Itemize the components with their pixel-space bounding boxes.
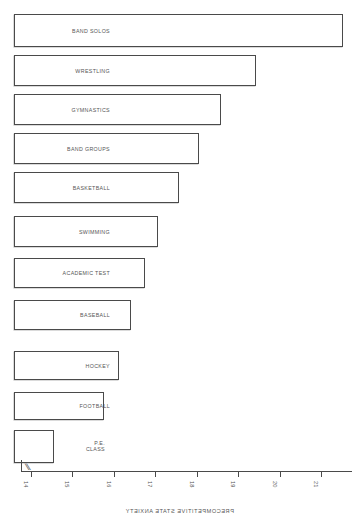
bar-label: BASKETBALL (73, 184, 110, 191)
x-axis-tick-label: 14 (23, 481, 29, 488)
bar-row: SWIMMING (0, 216, 359, 247)
bar-row: ACADEMIC TEST (0, 258, 359, 288)
x-axis-tick (280, 471, 281, 477)
bar-row: WRESTLING (0, 55, 359, 86)
bar-row: HOCKEY (0, 351, 359, 380)
bar (14, 55, 256, 86)
bar-label: FOOTBALL (80, 403, 110, 410)
x-axis-tick (31, 471, 32, 477)
bar (14, 430, 54, 463)
x-axis-tick (114, 471, 115, 477)
bar-label: BAND SOLOS (72, 27, 110, 34)
x-axis-line (21, 471, 352, 472)
bar-row: P.E. CLASS (0, 430, 359, 463)
bar (14, 94, 221, 125)
bar-row: FOOTBALL (0, 392, 359, 420)
x-axis-tick-label: 15 (64, 481, 70, 488)
x-axis-title: PRECOMPETITIVE STATE ANXIETY (0, 508, 359, 514)
x-axis-tick (197, 471, 198, 477)
bar-label: BASEBALL (80, 312, 110, 319)
chart-figure: BAND SOLOSWRESTLINGGYMNASTICSBAND GROUPS… (0, 0, 359, 523)
x-axis-tick-label: 18 (189, 481, 195, 488)
bar-label: P.E. CLASS (86, 440, 105, 454)
x-axis-tick (155, 471, 156, 477)
bar-label: WRESTLING (75, 67, 110, 74)
bar (14, 300, 131, 330)
bar-row: BASKETBALL (0, 172, 359, 203)
x-axis-tick-label: 20 (272, 481, 278, 488)
bar (14, 14, 343, 47)
bar-row: GYMNASTICS (0, 94, 359, 125)
x-axis-tick-label: 17 (147, 481, 153, 488)
bar-row: BAND GROUPS (0, 133, 359, 164)
plot-area: BAND SOLOSWRESTLINGGYMNASTICSBAND GROUPS… (0, 0, 359, 523)
bar-label: ACADEMIC TEST (63, 270, 110, 277)
x-axis-tick-label: 19 (230, 481, 236, 488)
bar-label: SWIMMING (79, 228, 110, 235)
x-axis-tick (238, 471, 239, 477)
bar-row: BAND SOLOS (0, 14, 359, 47)
x-axis-tick (72, 471, 73, 477)
x-axis-tick (321, 471, 322, 477)
x-axis-origin-stub (21, 460, 22, 472)
x-axis-tick-label: 21 (313, 481, 319, 488)
bar-label: GYMNASTICS (71, 106, 110, 113)
bar-label: BAND GROUPS (67, 145, 110, 152)
bar-label: HOCKEY (86, 362, 110, 369)
bar-row: BASEBALL (0, 300, 359, 330)
x-axis-tick-label: 16 (106, 481, 112, 488)
